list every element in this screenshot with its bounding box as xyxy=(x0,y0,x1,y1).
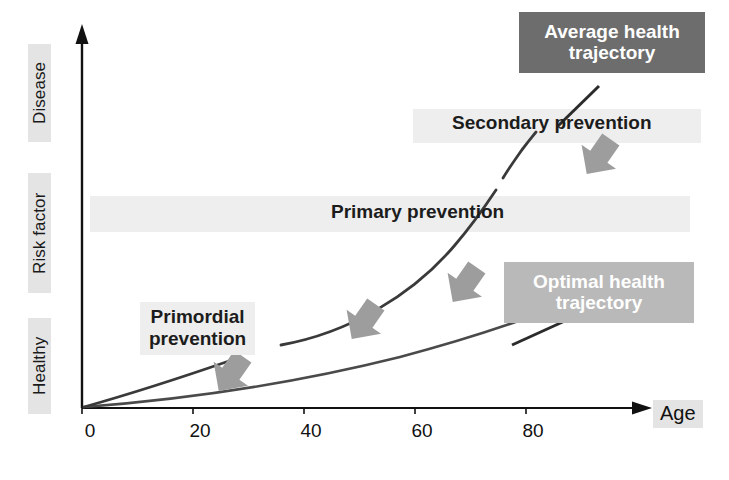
arrow-primary-prevention-upper xyxy=(436,255,494,313)
x-axis-tick-80: 80 xyxy=(513,420,553,442)
y-axis-label-disease: Disease xyxy=(28,44,51,142)
x-axis-tick-20: 20 xyxy=(180,420,220,442)
y-axis xyxy=(76,24,89,408)
x-axis xyxy=(82,402,652,415)
x-axis-tick-0: 0 xyxy=(70,420,110,442)
label-primordial-prevention: Primordial prevention xyxy=(140,302,255,355)
chart-canvas: Disease Risk factor Healthy 0 20 40 60 8… xyxy=(0,0,729,480)
arrow-secondary-prevention xyxy=(570,127,628,185)
label-secondary-prevention: Secondary prevention xyxy=(452,112,652,134)
x-axis-title: Age xyxy=(653,400,703,428)
y-axis-label-healthy: Healthy xyxy=(28,318,51,414)
arrow-primary-prevention xyxy=(335,292,393,350)
leader-line-optimal-health xyxy=(512,320,567,345)
y-axis-label-risk-factor: Risk factor xyxy=(28,173,51,293)
callout-average-health-trajectory: Average health trajectory xyxy=(519,12,705,73)
x-axis-tick-40: 40 xyxy=(291,420,331,442)
curve-average-health-segment-secondary xyxy=(503,132,536,178)
label-primary-prevention: Primary prevention xyxy=(331,201,504,223)
x-axis-tick-60: 60 xyxy=(402,420,442,442)
callout-optimal-health-trajectory: Optimal health trajectory xyxy=(504,262,694,323)
